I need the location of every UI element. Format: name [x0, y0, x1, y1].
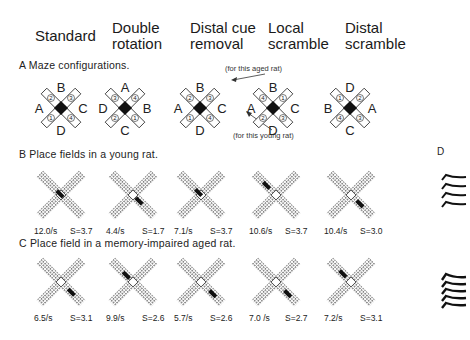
maze-configuration: 1 2 4 3 D B A C — [322, 80, 378, 136]
firing-rate: 10.4/s — [324, 226, 347, 236]
column-title-distal-cue-removal: Distal cueremoval — [190, 20, 256, 52]
svg-text:B: B — [57, 80, 66, 95]
svg-text:C: C — [217, 101, 226, 116]
maze-configuration: 2 3 1 4 B A C D — [172, 80, 228, 136]
waveform-traces-young — [440, 172, 470, 214]
place-field-map-young — [102, 164, 164, 226]
place-field-map-young — [320, 164, 382, 226]
spatial-info-score: S=3.7 — [210, 226, 232, 236]
firing-rate: 10.6/s — [249, 226, 272, 236]
svg-text:A: A — [368, 101, 377, 116]
firing-rate: 12.0/s — [34, 226, 57, 236]
svg-text:C: C — [290, 101, 299, 116]
svg-text:D: D — [345, 80, 354, 95]
spatial-info-score: S=3.0 — [360, 226, 382, 236]
svg-text:D: D — [98, 101, 107, 116]
spatial-info-score: S=1.7 — [142, 226, 164, 236]
section-d-label: D — [437, 146, 444, 157]
spatial-info-score: S=3.7 — [285, 226, 307, 236]
firing-rate: 4.4/s — [106, 226, 124, 236]
spatial-info-score: S=2.6 — [210, 313, 232, 323]
svg-text:B: B — [324, 101, 333, 116]
place-field-map-young — [170, 164, 232, 226]
section-c-label: C Place field in a memory-impaired aged … — [19, 237, 236, 249]
place-field-map-aged — [102, 251, 164, 313]
spatial-info-score: S=3.1 — [70, 313, 92, 323]
svg-text:A: A — [247, 101, 256, 116]
place-field-map-young — [245, 164, 307, 226]
annotation-aged-rat: (for this aged rat) — [225, 64, 282, 73]
svg-text:A: A — [35, 101, 44, 116]
firing-rate: 5.7/s — [174, 313, 192, 323]
svg-text:B: B — [196, 80, 205, 95]
place-field-map-aged — [245, 251, 307, 313]
column-title-double-rotation: Doublerotation — [112, 20, 162, 52]
maze-configuration: 2 3 1 4 B A C D — [33, 80, 89, 136]
firing-rate: 7.0 /s — [249, 313, 270, 323]
place-field-map-young — [30, 164, 92, 226]
firing-rate: 7.1/s — [174, 226, 192, 236]
column-title-distal-scramble: Distalscramble — [345, 20, 406, 52]
section-b-label: B Place fields in a young rat. — [19, 148, 158, 160]
place-field-map-aged — [30, 251, 92, 313]
svg-text:A: A — [174, 101, 183, 116]
spatial-info-score: S=2.6 — [142, 313, 164, 323]
firing-rate: 9.9/s — [106, 313, 124, 323]
place-field-map-aged — [170, 251, 232, 313]
column-title-local-scramble: Localscramble — [268, 20, 329, 52]
section-a-label: A Maze configurations. — [19, 59, 130, 71]
spatial-info-score: S=3.7 — [70, 226, 92, 236]
svg-text:C: C — [78, 101, 87, 116]
column-title-standard: Standard — [35, 28, 96, 44]
svg-text:D: D — [195, 123, 204, 136]
firing-rate: 7.2/s — [324, 313, 342, 323]
maze-configuration: 4 1 2 3 B A C D — [245, 80, 301, 136]
spatial-info-score: S=2.7 — [285, 313, 307, 323]
svg-text:C: C — [345, 123, 354, 136]
svg-text:B: B — [143, 101, 152, 116]
svg-text:A: A — [121, 80, 130, 95]
svg-text:D: D — [56, 123, 65, 136]
svg-text:B: B — [269, 80, 278, 95]
svg-text:C: C — [120, 123, 129, 136]
firing-rate: 6.5/s — [34, 313, 52, 323]
svg-text:D: D — [268, 123, 277, 136]
place-field-map-aged — [320, 251, 382, 313]
maze-configuration: 3 4 2 1 A D B C — [97, 80, 153, 136]
spatial-info-score: S=3.1 — [360, 313, 382, 323]
waveform-traces-aged — [440, 272, 470, 314]
